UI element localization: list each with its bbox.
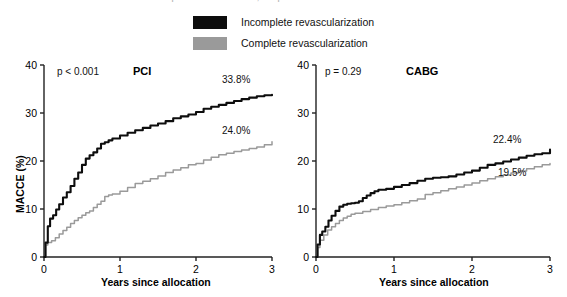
svg-text:1: 1 xyxy=(391,263,397,275)
svg-text:30: 30 xyxy=(297,107,309,119)
pvalue-pci: p < 0.001 xyxy=(57,66,99,77)
y-axis-title-pci: MACCE (%) xyxy=(14,155,26,213)
x-axis-title-pci: Years since allocation xyxy=(101,276,211,288)
cropped-title-text: Incomplete revascularization, complete r… xyxy=(148,0,418,2)
legend-label-complete: Complete revascularization xyxy=(241,38,368,49)
svg-text:2: 2 xyxy=(193,263,199,275)
svg-text:3: 3 xyxy=(269,263,275,275)
svg-text:0: 0 xyxy=(303,251,309,263)
svg-text:0: 0 xyxy=(31,251,37,263)
svg-text:2: 2 xyxy=(469,263,475,275)
svg-text:40: 40 xyxy=(297,59,309,71)
panel-title-pci: PCI xyxy=(133,65,151,77)
legend-swatch-complete xyxy=(193,37,227,50)
svg-text:40: 40 xyxy=(25,59,37,71)
svg-text:30: 30 xyxy=(25,107,37,119)
svg-text:10: 10 xyxy=(297,203,309,215)
svg-text:3: 3 xyxy=(547,263,553,275)
svg-text:10: 10 xyxy=(25,203,37,215)
x-axis-title-cabg: Years since allocation xyxy=(379,276,489,288)
endpoint-label-pci-complete: 24.0% xyxy=(222,125,250,136)
legend-label-incomplete: Incomplete revascularization xyxy=(241,17,374,28)
endpoint-label-cabg-incomplete: 22.4% xyxy=(493,134,521,145)
cropped-title-strip: Incomplete revascularization, complete r… xyxy=(0,0,567,7)
legend-swatch-incomplete xyxy=(193,16,227,29)
svg-text:20: 20 xyxy=(25,155,37,167)
svg-text:1: 1 xyxy=(117,263,123,275)
legend-item-complete: Complete revascularization xyxy=(193,35,374,51)
figure-root: Incomplete revascularization, complete r… xyxy=(0,0,567,297)
chart-legend: Incomplete revascularization Complete re… xyxy=(193,14,374,56)
endpoint-label-cabg-complete: 19.5% xyxy=(498,167,526,178)
endpoint-label-pci-incomplete: 33.8% xyxy=(222,74,250,85)
svg-text:0: 0 xyxy=(313,263,319,275)
svg-text:20: 20 xyxy=(297,155,309,167)
panel-cabg: 0102030400123 p = 0.29 CABG 22.4% 19.5% … xyxy=(290,55,567,297)
legend-item-incomplete: Incomplete revascularization xyxy=(193,14,374,30)
pvalue-cabg: p = 0.29 xyxy=(325,66,361,77)
svg-text:0: 0 xyxy=(41,263,47,275)
plot-area-pci: 0102030400123 xyxy=(0,55,290,297)
panel-pci: 0102030400123 p < 0.001 PCI 33.8% 24.0% … xyxy=(0,55,290,297)
panel-title-cabg: CABG xyxy=(406,65,438,77)
